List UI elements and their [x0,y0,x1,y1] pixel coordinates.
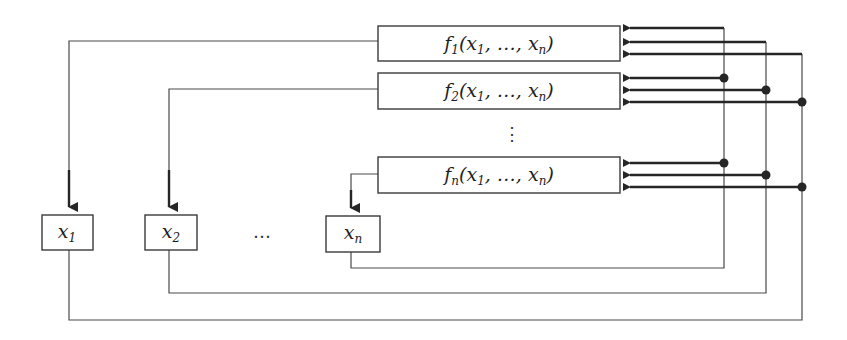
function-label: f2(x1, …, xn) [442,79,554,104]
function-label: fn(x1, …, xn) [442,163,554,188]
output-connectors [69,41,378,208]
function-label: f1(x1, …, xn) [442,32,554,57]
variable-box-x2: x2 [145,215,197,250]
junction-dot [798,183,807,192]
variable-box-xn: xn [326,216,380,252]
junction-dot [762,86,771,95]
junction-dot [720,74,729,83]
function-box-fn: fn(x1, …, xn) [378,157,620,193]
fn-to-xn-connector [351,174,378,190]
feedback-diagram: f1(x1, …, xn) f2(x1, …, xn) ⋮ fn(x1, …, … [0,0,847,340]
f2-to-x2-connector [169,89,378,170]
junction-dot [762,171,771,180]
junction-dot [798,98,807,107]
f1-to-x1-connector [69,41,378,170]
junction-dot [720,159,729,168]
horizontal-ellipsis: … [253,221,271,242]
xn-feedback-bus [351,28,724,268]
vertical-ellipsis: ⋮ [503,123,521,144]
function-box-f2: f2(x1, …, xn) [378,73,620,109]
variable-box-x1: x1 [42,215,93,250]
function-box-f1: f1(x1, …, xn) [378,26,620,61]
